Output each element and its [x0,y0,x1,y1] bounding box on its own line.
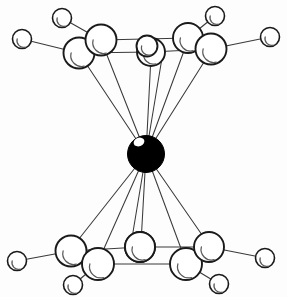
lower-atom-right-outer [194,232,224,262]
upper-peripheral-far-right-body [261,28,280,47]
lower-atom-right-outer-body [194,232,224,262]
lower-peripheral-far-right-body [256,249,275,268]
lower-peripheral-bottom-right-body [210,275,229,294]
lower-peripheral-far-left-body [8,252,27,271]
lower-peripheral-far-left [8,252,27,271]
upper-atom-right-outer-body [196,34,227,65]
molecule-diagram [0,0,287,297]
upper-atom-right-outer [196,34,227,65]
upper-atom-center-b-body [137,36,158,57]
upper-peripheral-far-left-body [13,30,32,49]
lower-peripheral-far-right [256,249,275,268]
upper-atom-center-b [137,36,158,57]
upper-peripheral-top-left-body [53,9,72,28]
center-atom-group [128,136,165,173]
upper-peripheral-far-right [261,28,280,47]
lower-peripheral-bottom-right [210,275,229,294]
upper-atom-group [13,7,280,69]
upper-peripheral-top-left [53,9,72,28]
lower-peripheral-bottom-left-body [64,276,83,295]
lower-atom-left-inner [82,248,114,280]
lower-atom-center-back-body [125,232,155,262]
upper-atom-left-inner-body [86,25,117,56]
molecule-canvas [0,0,287,297]
lower-atom-center-back [125,232,155,262]
upper-peripheral-top-right-body [206,7,225,26]
lower-atom-group [8,232,275,295]
lower-peripheral-bottom-left [64,276,83,295]
upper-peripheral-far-left [13,30,32,49]
central-metal-atom [128,136,165,173]
central-metal-atom-body [128,136,165,173]
lower-atom-left-inner-body [82,248,114,280]
upper-peripheral-top-right [206,7,225,26]
upper-atom-left-inner [86,25,117,56]
